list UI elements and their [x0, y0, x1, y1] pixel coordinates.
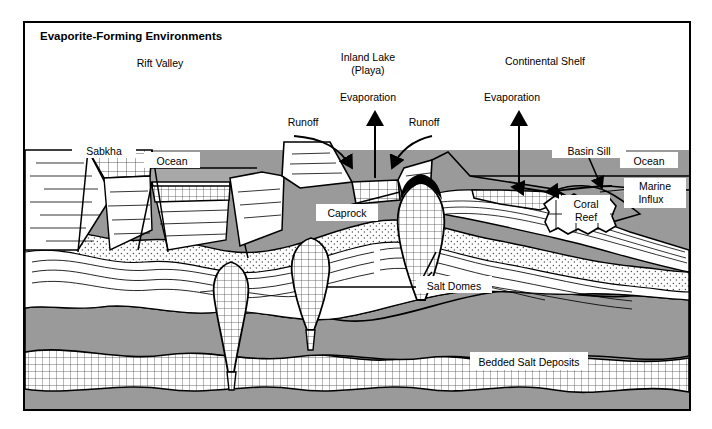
label-runoff-left: Runoff: [288, 116, 319, 128]
label-salt-domes: Salt Domes: [427, 280, 481, 292]
label-sabkha: Sabkha: [86, 145, 122, 157]
label-inland-lake-playa: (Playa): [351, 64, 384, 76]
label-evaporation-right: Evaporation: [484, 91, 540, 103]
label-rift-valley: Rift Valley: [137, 57, 184, 69]
label-coral-reef: Coral: [573, 198, 598, 210]
label-evaporation-left: Evaporation: [340, 91, 396, 103]
label-bedded-salt-deposits: Bedded Salt Deposits: [479, 356, 580, 368]
label-marine-influx-2: Influx: [638, 193, 664, 205]
figure-canvas: Evaporite-Forming Environments Rift Vall…: [0, 0, 712, 429]
graben-salt-layer: [152, 186, 230, 202]
label-caprock: Caprock: [327, 207, 367, 219]
cross-section-body: [25, 142, 689, 409]
playa-salt-floor: [352, 180, 400, 204]
label-basin-sill: Basin Sill: [567, 145, 610, 157]
label-runoff-right: Runoff: [409, 116, 440, 128]
label-marine-influx: Marine: [639, 180, 671, 192]
label-inland-lake: Inland Lake: [341, 51, 395, 63]
label-coral-reef-2: Reef: [575, 211, 597, 223]
label-ocean-right: Ocean: [634, 155, 665, 167]
label-continental-shelf: Continental Shelf: [505, 55, 585, 67]
figure-title: Evaporite-Forming Environments: [40, 30, 222, 42]
cross-section-svg: Evaporite-Forming Environments Rift Vall…: [0, 0, 712, 429]
label-ocean-left: Ocean: [157, 155, 188, 167]
